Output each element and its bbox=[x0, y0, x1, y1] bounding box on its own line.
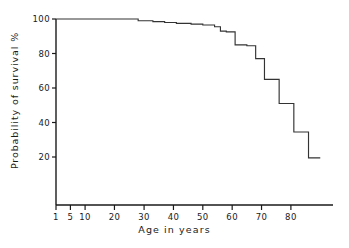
y-tick-label: 40 bbox=[22, 118, 50, 128]
x-tick-label: 30 bbox=[138, 212, 150, 222]
axis-lines bbox=[56, 19, 333, 205]
plot-area bbox=[0, 0, 349, 248]
x-tick-label: 20 bbox=[109, 212, 121, 222]
y-tick-label: 60 bbox=[22, 83, 50, 93]
x-tick-label: 5 bbox=[67, 212, 73, 222]
x-tick-label: 10 bbox=[79, 212, 91, 222]
y-tick-label: 100 bbox=[22, 14, 50, 24]
x-axis-title-text: Age in years bbox=[138, 224, 210, 235]
x-axis-title: Age in years bbox=[0, 224, 349, 235]
x-tick-label: 70 bbox=[256, 212, 268, 222]
x-tick-label: 50 bbox=[197, 212, 209, 222]
survival-chart-figure: Probability of survival % 20406080100151… bbox=[0, 0, 349, 248]
y-tick-label: 20 bbox=[22, 152, 50, 162]
x-tick-label: 1 bbox=[53, 212, 59, 222]
x-tick-label: 80 bbox=[285, 212, 297, 222]
x-tick-label: 40 bbox=[168, 212, 180, 222]
y-tick-label: 80 bbox=[22, 49, 50, 59]
x-axis-ticks bbox=[56, 205, 291, 210]
survival-step-curve bbox=[56, 19, 320, 158]
x-tick-label: 60 bbox=[226, 212, 238, 222]
